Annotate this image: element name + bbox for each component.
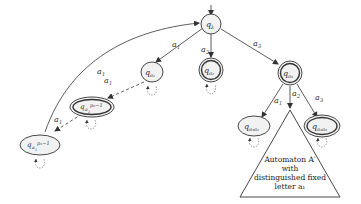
state-q-a3a1: q a₃a₁ [238,116,270,136]
self-loop-a1 [147,86,156,95]
svg-text:a₃: a₃ [288,73,293,79]
svg-text:1: 1 [177,44,180,50]
triangle-line1: Automaton A′ [263,155,316,164]
triangle-line2: with [282,164,299,173]
state-q-a1-p1-minus-1: q a 1 p₁−1 [20,135,60,155]
self-loop-p1m1 [35,159,44,168]
triangle-line3: distinguished fixed [254,173,326,182]
self-loop-a2 [206,84,215,94]
edge-label-dash2: a 1 [54,115,62,125]
edge-label-a3-a2: a 2 [292,89,300,99]
edge-a1-p2m1 [108,82,144,98]
state-q-lambda: q λ [201,14,221,34]
svg-text:1: 1 [109,80,112,86]
svg-text:1: 1 [88,110,90,114]
state-q-a3a3: q a₃a₃ [304,115,340,137]
svg-text:a₂: a₂ [209,70,214,76]
edge-label-lambda-a2: a 2 [201,45,209,55]
svg-text:a₃a₁: a₃a₁ [249,126,259,132]
edge-label-lambda-a1: a 1 [172,40,180,50]
svg-text:2: 2 [296,93,300,99]
svg-text:2: 2 [205,49,209,55]
edge-a3-a3a3 [297,84,317,117]
svg-text:3: 3 [258,43,261,49]
automaton-diagram: a 1 a 2 a 3 a 1 a 1 a 1 a 1 a 2 a 3 [0,0,361,204]
svg-text:1: 1 [279,100,282,106]
edge-label-a3-a1: a 1 [274,96,282,106]
svg-text:1: 1 [35,148,37,152]
state-q-a1: q a₁ [141,62,163,82]
svg-text:λ: λ [210,24,214,30]
self-loop-a3a1 [249,138,258,147]
edge-label-dash1: a 1 [104,76,112,86]
svg-text:1: 1 [59,119,62,125]
svg-text:3: 3 [320,97,323,103]
edge-lambda-a3 [221,29,278,64]
svg-text:a₃a₃: a₃a₃ [317,126,327,132]
state-q-a3: q a₃ [278,61,302,85]
svg-text:a₁: a₁ [150,72,155,78]
self-loop-p2m1 [86,120,95,129]
svg-text:p₂−1: p₂−1 [90,102,103,109]
svg-text:p₁−1: p₁−1 [37,140,50,147]
state-q-a1-p2-minus-1: q a 1 p₂−1 [70,97,114,117]
self-loop-a3a3 [317,138,326,147]
edge-label-lambda-a3: a 3 [253,39,261,49]
edge-label-a3-a3: a 3 [315,93,323,103]
triangle-line4: letter a₁ [275,182,306,191]
state-q-a2: q a₂ [199,58,223,82]
